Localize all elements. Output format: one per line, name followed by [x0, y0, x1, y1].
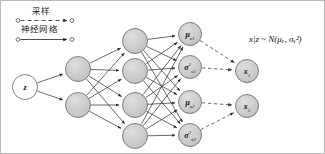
- sampling-edge: [202, 68, 232, 70]
- network-edge: [146, 42, 178, 63]
- legend-label-sampling: 采样: [32, 4, 50, 16]
- network-edge-group: [37, 36, 183, 136]
- node-h2-2[interactable]: [123, 59, 148, 84]
- distribution-formula: x|z ~ N(μₓ, σₓ²): [249, 34, 302, 44]
- network-edge: [90, 48, 121, 63]
- node-circle: [66, 93, 91, 118]
- node-circle: [66, 57, 91, 82]
- sampling-edge: [202, 103, 232, 105]
- node-sigma2-x1[interactable]: σ2x1: [179, 56, 202, 79]
- sampling-edge: [200, 41, 234, 63]
- node-circle: [123, 59, 148, 84]
- node-circle: [179, 91, 202, 114]
- node-x1[interactable]: x1: [236, 60, 259, 83]
- node-mu-x2[interactable]: μx2: [179, 91, 202, 114]
- network-edge: [148, 36, 175, 39]
- network-edge: [146, 110, 177, 129]
- diagram-canvas: zμx1σ2x1μx2σ2x2x1x2 采样 神经网络 x|z ~ N(μₓ, …: [0, 0, 325, 154]
- network-edge: [89, 76, 121, 97]
- node-h1-1[interactable]: [66, 57, 91, 82]
- node-x2[interactable]: x2: [236, 95, 259, 118]
- node-group: zμx1σ2x1μx2σ2x2x1x2: [13, 23, 259, 149]
- node-circle: [123, 29, 148, 54]
- sampling-edge-group: [200, 41, 234, 130]
- legend-network-line: [16, 38, 74, 42]
- sampling-edge: [201, 113, 234, 130]
- node-z[interactable]: z: [13, 75, 38, 100]
- network-edge: [91, 69, 119, 70]
- network-edge: [37, 74, 63, 83]
- node-circle: [123, 93, 148, 118]
- node-circle: [179, 23, 202, 46]
- node-h2-3[interactable]: [123, 93, 148, 118]
- node-h1-2[interactable]: [66, 93, 91, 118]
- node-circle: [123, 124, 148, 149]
- legend-label-network: 神经网络: [21, 22, 58, 34]
- node-sigma2-x2[interactable]: σ2x2: [179, 124, 202, 147]
- network-edge: [37, 91, 63, 100]
- network-edge: [89, 79, 121, 98]
- node-mu-x1[interactable]: μx1: [179, 23, 202, 46]
- node-h2-1[interactable]: [123, 29, 148, 54]
- node-h2-4[interactable]: [123, 124, 148, 149]
- network-edge: [86, 79, 124, 124]
